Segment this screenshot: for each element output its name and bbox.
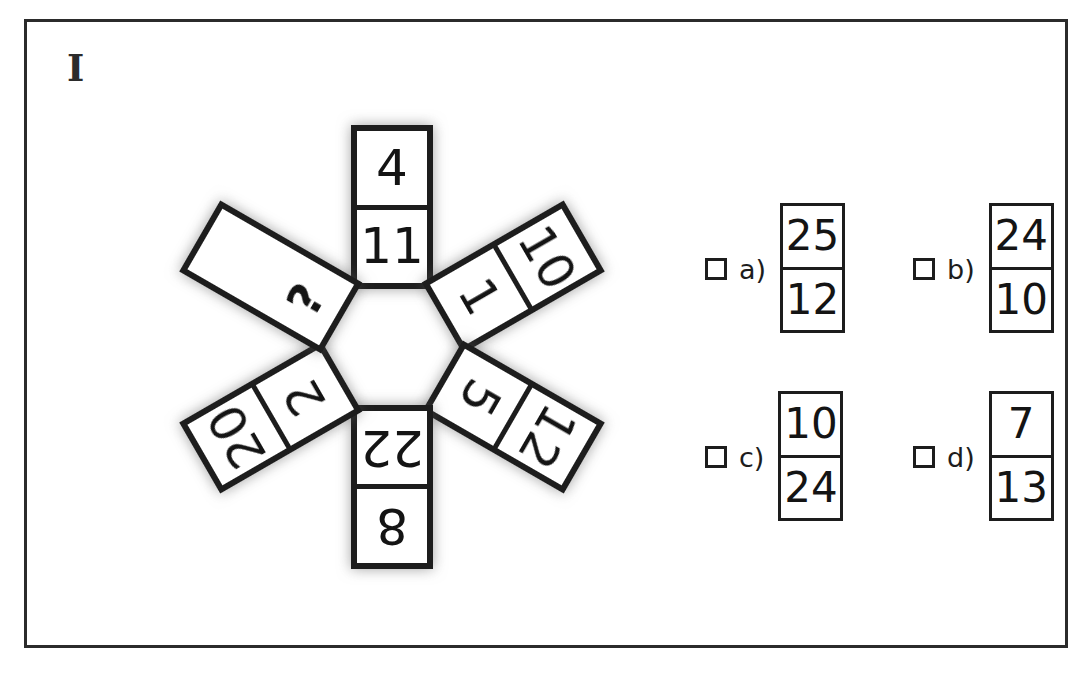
option-domino-top-cell: 7 xyxy=(992,394,1051,458)
domino-inner-value: 5 xyxy=(450,371,509,424)
domino-tile[interactable]: 12 5 xyxy=(422,340,605,493)
item-number-label: I xyxy=(67,50,84,87)
option-domino-bottom-cell: 10 xyxy=(992,270,1051,331)
option-domino-bottom-cell: 12 xyxy=(783,270,842,331)
domino-outer-cell: 8 xyxy=(357,485,427,564)
option-domino-d[interactable]: 7 13 xyxy=(989,391,1054,521)
checkbox-option-d[interactable] xyxy=(913,446,935,468)
domino-inner-value: 22 xyxy=(360,423,424,473)
option-letter-a: a) xyxy=(739,256,766,283)
answer-option-a[interactable]: a) 25 12 xyxy=(705,204,845,334)
domino-outer-cell: 4 xyxy=(357,131,427,210)
option-domino-top-value: 25 xyxy=(786,215,839,257)
answer-option-d[interactable]: d) 7 13 xyxy=(913,392,1054,522)
option-domino-a[interactable]: 25 12 xyxy=(780,203,845,333)
option-domino-bottom-cell: 13 xyxy=(992,458,1051,519)
domino-inner-value: 2 xyxy=(275,371,334,424)
domino-tile[interactable]: 8 22 xyxy=(351,405,433,569)
answer-option-c[interactable]: c) 10 24 xyxy=(705,392,843,522)
checkbox-option-a[interactable] xyxy=(705,258,727,280)
domino-inner-value: 1 xyxy=(450,270,509,323)
domino-inner-value: 11 xyxy=(360,221,424,271)
option-domino-top-cell: 25 xyxy=(783,206,842,270)
domino-inner-cell: 22 xyxy=(357,411,427,485)
option-domino-top-cell: 24 xyxy=(992,206,1051,270)
option-domino-top-cell: 10 xyxy=(781,394,840,458)
puzzle-frame: I 4 11 10 1 xyxy=(24,19,1068,648)
option-domino-bottom-value: 13 xyxy=(994,467,1047,509)
option-domino-bottom-cell: 24 xyxy=(781,458,840,519)
option-domino-top-value: 7 xyxy=(1008,403,1035,445)
domino-tile[interactable]: 20 2 xyxy=(179,340,362,493)
domino-outer-value: 20 xyxy=(199,397,274,477)
option-domino-top-value: 10 xyxy=(784,403,837,445)
domino-outer-value: 8 xyxy=(376,501,408,551)
domino-tile-unknown[interactable]: ? xyxy=(179,200,362,353)
domino-outer-value: 4 xyxy=(376,143,408,193)
option-letter-b: b) xyxy=(947,256,975,283)
answer-option-b[interactable]: b) 24 10 xyxy=(913,204,1054,334)
domino-tile[interactable]: 10 1 xyxy=(422,200,605,353)
option-domino-b[interactable]: 24 10 xyxy=(989,203,1054,333)
option-domino-bottom-value: 24 xyxy=(784,467,837,509)
domino-outer-value: 10 xyxy=(510,217,585,297)
option-letter-c: c) xyxy=(739,444,764,471)
checkbox-option-b[interactable] xyxy=(913,258,935,280)
option-letter-d: d) xyxy=(947,444,975,471)
option-domino-c[interactable]: 10 24 xyxy=(778,391,843,521)
answer-options: a) 25 12 b) 24 10 xyxy=(699,192,1089,552)
domino-outer-value: 12 xyxy=(510,397,585,477)
domino-pinwheel: 4 11 10 1 12 xyxy=(117,67,667,627)
domino-tile[interactable]: 4 11 xyxy=(351,125,433,289)
option-domino-bottom-value: 10 xyxy=(994,279,1047,321)
option-domino-top-value: 24 xyxy=(994,215,1047,257)
question-mark: ? xyxy=(280,277,333,323)
option-domino-bottom-value: 12 xyxy=(786,279,839,321)
checkbox-option-c[interactable] xyxy=(705,446,727,468)
domino-inner-cell: 11 xyxy=(357,210,427,284)
